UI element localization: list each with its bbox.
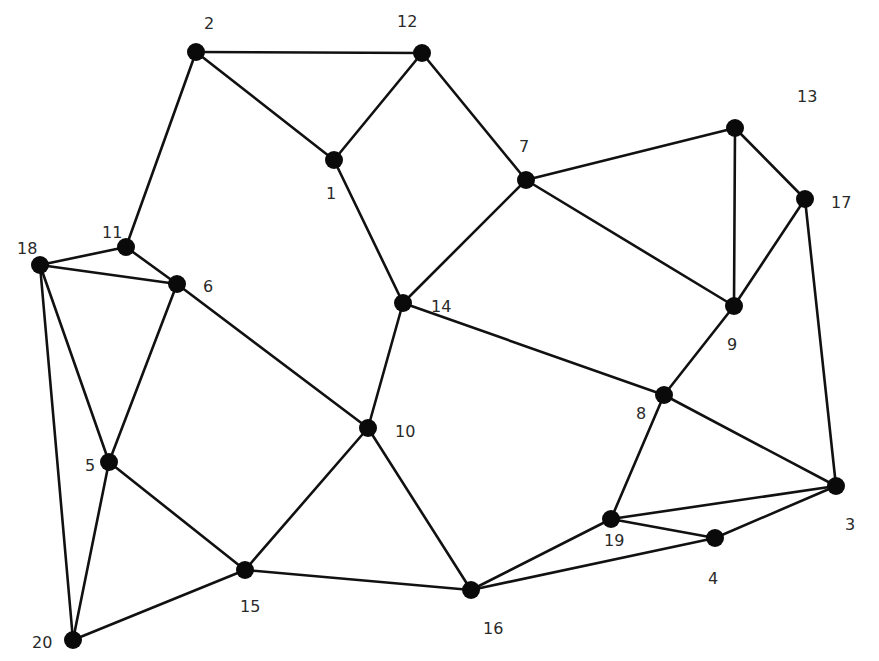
node-label-5: 5 xyxy=(85,456,95,475)
node-17 xyxy=(796,190,814,208)
node-3 xyxy=(827,477,845,495)
edge-14-8 xyxy=(403,303,664,395)
edge-3-19 xyxy=(611,486,836,519)
edge-12-7 xyxy=(422,53,526,180)
edge-7-9 xyxy=(526,180,734,306)
node-9 xyxy=(725,297,743,315)
node-label-18: 18 xyxy=(17,239,37,258)
graph-diagram: 1234567891011121314151617181920 xyxy=(0,0,879,661)
edge-17-9 xyxy=(734,199,805,306)
node-20 xyxy=(64,631,82,649)
edge-5-20 xyxy=(73,462,109,640)
edge-11-18 xyxy=(40,247,126,265)
edge-8-3 xyxy=(664,395,836,486)
node-label-14: 14 xyxy=(431,297,451,316)
edge-13-9 xyxy=(734,128,735,306)
node-2 xyxy=(187,43,205,61)
edge-7-14 xyxy=(403,180,526,303)
edge-15-20 xyxy=(73,570,245,640)
edge-2-12 xyxy=(196,52,422,53)
node-label-15: 15 xyxy=(240,597,260,616)
edge-1-14 xyxy=(334,160,403,303)
node-label-8: 8 xyxy=(636,404,646,423)
edge-7-13 xyxy=(526,128,735,180)
edge-layer xyxy=(40,52,836,640)
node-18 xyxy=(31,256,49,274)
node-label-10: 10 xyxy=(395,422,415,441)
node-label-6: 6 xyxy=(203,277,213,296)
node-7 xyxy=(517,171,535,189)
node-label-7: 7 xyxy=(519,137,529,156)
edge-2-11 xyxy=(126,52,196,247)
edge-17-3 xyxy=(805,199,836,486)
node-6 xyxy=(168,275,186,293)
node-label-13: 13 xyxy=(797,87,817,106)
edge-19-16 xyxy=(471,519,611,590)
label-layer: 1234567891011121314151617181920 xyxy=(17,12,855,652)
edge-18-5 xyxy=(40,265,109,462)
node-label-17: 17 xyxy=(831,193,851,212)
node-10 xyxy=(359,419,377,437)
edge-10-6 xyxy=(177,284,368,428)
edge-4-16 xyxy=(471,538,715,590)
node-label-20: 20 xyxy=(32,633,52,652)
node-15 xyxy=(236,561,254,579)
edge-10-15 xyxy=(245,428,368,570)
node-label-11: 11 xyxy=(102,223,122,242)
node-5 xyxy=(100,453,118,471)
node-label-16: 16 xyxy=(483,619,503,638)
edge-14-10 xyxy=(368,303,403,428)
node-16 xyxy=(462,581,480,599)
node-label-1: 1 xyxy=(326,184,336,203)
node-19 xyxy=(602,510,620,528)
edge-19-4 xyxy=(611,519,715,538)
edge-15-5 xyxy=(109,462,245,570)
node-label-12: 12 xyxy=(397,12,417,31)
node-8 xyxy=(655,386,673,404)
node-13 xyxy=(726,119,744,137)
node-label-4: 4 xyxy=(708,569,718,588)
edge-18-20 xyxy=(40,265,73,640)
node-label-19: 19 xyxy=(604,531,624,550)
edge-15-16 xyxy=(245,570,471,590)
node-1 xyxy=(325,151,343,169)
node-12 xyxy=(413,44,431,62)
node-14 xyxy=(394,294,412,312)
edge-10-16 xyxy=(368,428,471,590)
edge-12-1 xyxy=(334,53,422,160)
edge-2-1 xyxy=(196,52,334,160)
edge-9-8 xyxy=(664,306,734,395)
node-label-3: 3 xyxy=(845,515,855,534)
edge-13-17 xyxy=(735,128,805,199)
node-label-9: 9 xyxy=(727,335,737,354)
edge-6-5 xyxy=(109,284,177,462)
node-4 xyxy=(706,529,724,547)
node-label-2: 2 xyxy=(204,14,214,33)
